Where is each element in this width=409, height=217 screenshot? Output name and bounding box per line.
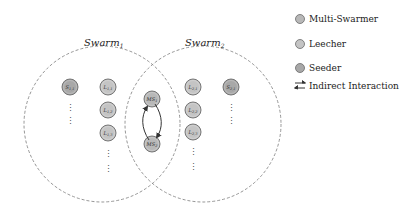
ellipsis-leechers-swarm1-a: ⋮ [104,149,113,159]
legend-leecher-label: Leecher [309,39,347,49]
legend-multi-swarmer-symbol [296,15,305,24]
ellipsis-leechers-swarm2-b: ⋮ [189,162,198,172]
ellipsis-leechers-swarm2-a: ⋮ [189,147,198,157]
double-arrow-icon [295,81,306,90]
legend-indirect-interaction-label: Indirect Interaction [309,81,399,91]
ellipsis-seeders-swarm2-a: ⋮ [227,103,236,113]
nodes-layer: S1,1L1,1L1,2L1,3MS1MS2L2,1L2,2L2,3S2,1 [62,79,239,152]
ellipsis-seeders-swarm1-a: ⋮ [66,103,75,113]
swarm-2-boundary [125,46,281,202]
arrow-ms2-to-ms1 [143,107,149,140]
ellipsis-seeders-swarm2-b: ⋮ [227,116,236,126]
legend: Multi-Swarmer Leecher Seeder Indirect In… [295,14,400,91]
arrow-ms1-to-ms2 [155,104,161,137]
swarm-1-boundary [24,46,180,202]
ellipsis-leechers-swarm1-b: ⋮ [104,164,113,174]
legend-seeder-symbol [296,64,305,73]
legend-seeder-label: Seeder [309,63,342,73]
node-s21: S2,1 [223,79,239,95]
ellipsis-seeders-swarm1-b: ⋮ [66,116,75,126]
node-l13: L1,3 [100,125,116,141]
node-ms1: MS1 [144,91,160,107]
legend-leecher-symbol [296,40,305,49]
swarm-diagram: Swarm1 Swarm2 S1,1L1,1L1,2L1,3MS1MS2L2,1… [0,0,409,217]
legend-multi-swarmer-label: Multi-Swarmer [309,14,379,24]
node-l21: L2,1 [185,79,201,95]
node-l11: L1,1 [100,79,116,95]
swarm-2-title: Swarm2 [185,37,225,49]
node-ms2: MS2 [144,136,160,152]
swarm-1-title: Swarm1 [84,37,123,49]
node-s11: S1,1 [62,79,78,95]
node-l23: L2,3 [185,124,201,140]
node-l22: L2,2 [185,102,201,118]
node-l12: L1,2 [100,102,116,118]
